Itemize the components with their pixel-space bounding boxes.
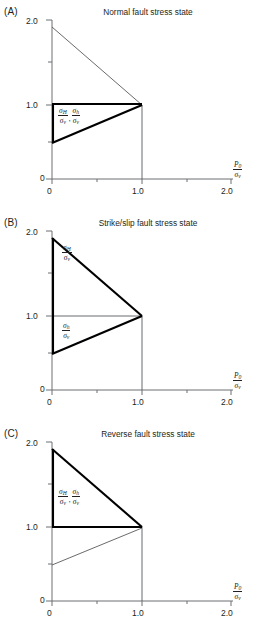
- panel-a-xaxis-label: P0 σv: [233, 160, 242, 178]
- fraction-denominator: σv: [233, 170, 242, 178]
- fraction-p0-sigmav: P0 σv: [233, 372, 242, 389]
- fraction-denominator: σv: [58, 497, 68, 505]
- panel-c-ytick-2: 2.0: [26, 438, 38, 448]
- panel-b-ytick-2: 2.0: [26, 227, 38, 237]
- panel-b-xtick-2: 2.0: [221, 397, 233, 407]
- fraction-sigmaH-sigmav: σH σv: [58, 488, 68, 505]
- panel-c-xtick-1: 1.0: [132, 608, 144, 618]
- fraction-sigmaH-sigmav: σH σv: [62, 244, 72, 261]
- panel-b-xaxis-label: P0 σv: [233, 371, 242, 389]
- fraction-denominator: σv: [62, 331, 70, 339]
- panel-c-ytick-0: 0: [40, 595, 45, 605]
- fraction-sigmah-sigmav: σh σv: [62, 322, 70, 339]
- panel-b-upper-curve-label: σH σv: [62, 243, 72, 261]
- panel-c-curve-label: σH σv , σh σv: [58, 487, 80, 505]
- thin-lower-envelope: [52, 528, 142, 565]
- fraction-p0-sigmav: P0 σv: [233, 583, 242, 600]
- label-comma: ,: [68, 495, 72, 504]
- fraction-sigmaH-sigmav: σH σv: [58, 107, 68, 124]
- panel-c-ytick-1: 1.0: [26, 522, 38, 532]
- thin-upper-envelope: [52, 27, 142, 105]
- panel-b-ytick-1: 1.0: [26, 311, 38, 321]
- panel-c-xtick-2: 2.0: [221, 608, 233, 618]
- panel-b-xtick-1: 1.0: [132, 397, 144, 407]
- panel-a-ytick-1: 1.0: [26, 100, 38, 110]
- panel-b: (B) Strike/slip fault stress state 2.0: [0, 211, 277, 422]
- fraction-denominator: σv: [233, 381, 242, 389]
- panel-a-xtick-0: 0: [47, 186, 52, 196]
- panel-a-xtick-2: 2.0: [221, 186, 233, 196]
- panel-a-ytick-0: 0: [40, 173, 45, 183]
- label-comma: ,: [68, 114, 72, 123]
- stress-state-figure: (A) Normal fault stress state: [0, 0, 277, 633]
- panel-a-xtick-1: 1.0: [132, 186, 144, 196]
- panel-b-xtick-0: 0: [47, 397, 52, 407]
- fraction-p0-sigmav: P0 σv: [233, 161, 242, 178]
- fraction-sigmah-sigmav: σh σv: [72, 107, 80, 124]
- panel-c: (C) Reverse fault stress state 2.0: [0, 422, 277, 633]
- fraction-denominator: σv: [233, 592, 242, 600]
- panel-a-curve-label: σH σv , σh σv: [58, 106, 80, 124]
- panel-a-ytick-2: 2.0: [26, 16, 38, 26]
- fraction-sigmah-sigmav: σh σv: [72, 488, 80, 505]
- fraction-denominator: σv: [72, 497, 80, 505]
- fraction-denominator: σv: [62, 253, 72, 261]
- panel-b-lower-curve-label: σh σv: [62, 321, 70, 339]
- fraction-denominator: σv: [58, 116, 68, 124]
- fraction-denominator: σv: [72, 116, 80, 124]
- panel-a: (A) Normal fault stress state: [0, 0, 277, 211]
- panel-c-xtick-0: 0: [47, 608, 52, 618]
- panel-b-ytick-0: 0: [40, 384, 45, 394]
- panel-c-xaxis-label: P0 σv: [233, 582, 242, 600]
